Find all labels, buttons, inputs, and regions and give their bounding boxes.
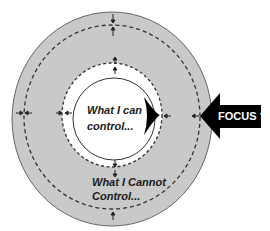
outer-label-line2: Control... xyxy=(92,190,140,202)
inner-label-line1: What I can xyxy=(87,104,142,116)
inner-label-line2: control... xyxy=(87,120,133,132)
inner-circle xyxy=(73,78,155,160)
focus-label: FOCUS ? xyxy=(218,110,267,122)
circle-of-control-diagram: What I can control... What I Cannot Cont… xyxy=(0,0,270,231)
outer-label-line1: What I Cannot xyxy=(92,176,167,188)
